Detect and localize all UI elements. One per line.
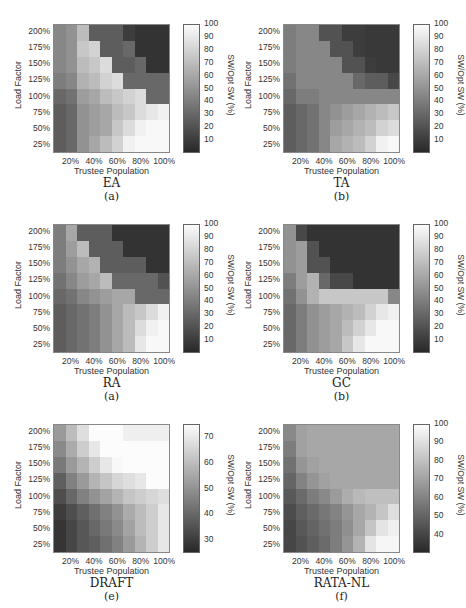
heatmap-cell <box>365 241 377 257</box>
heatmap-cell <box>307 536 319 552</box>
colorbar-tick-label: 80 <box>434 244 443 254</box>
heatmap-cell <box>307 257 319 273</box>
heatmap-cell <box>146 520 158 536</box>
heatmap-cell <box>123 104 135 120</box>
heatmap-cell <box>319 473 331 489</box>
heatmap-cell <box>388 89 400 105</box>
heatmap-cell <box>77 504 89 520</box>
heatmap-cell <box>100 41 112 57</box>
heatmap-cell <box>89 273 101 289</box>
heatmap-cell <box>307 41 319 57</box>
y-tick-label: 25% <box>20 139 50 149</box>
heatmap-cell <box>296 336 308 352</box>
colorbar-tick-label: 30 <box>204 108 213 118</box>
heatmap-cell <box>112 73 124 89</box>
colorbar-tick-label: 50 <box>204 83 213 93</box>
heatmap-cell <box>330 225 342 241</box>
x-tick-label: 100% <box>379 556 409 566</box>
colorbar-tick-label: 60 <box>204 270 213 280</box>
heatmap-cell <box>89 289 101 305</box>
heatmap-cell <box>319 520 331 536</box>
heatmap-cell <box>388 520 400 536</box>
heatmap-cell <box>342 304 354 320</box>
heatmap-cell <box>89 457 101 473</box>
heatmap-cell <box>100 73 112 89</box>
heatmap-cell <box>388 136 400 152</box>
heatmap-cell <box>342 289 354 305</box>
heatmap-cell <box>388 489 400 505</box>
heatmap-cell <box>388 257 400 273</box>
heatmap-cell <box>284 273 296 289</box>
y-tick-label: 50% <box>20 523 50 533</box>
heatmap-cell <box>376 89 388 105</box>
heatmap-cell <box>146 457 158 473</box>
heatmap-cell <box>54 504 66 520</box>
heatmap-cell <box>330 273 342 289</box>
heatmap-cell <box>135 73 147 89</box>
x-tick-label: 100% <box>379 356 409 366</box>
heatmap-cell <box>376 473 388 489</box>
colorbar-tick-label: 40 <box>434 295 443 305</box>
heatmap-cell <box>330 536 342 552</box>
heatmap-cell <box>353 73 365 89</box>
colorbar-tick-label: 50 <box>204 483 213 493</box>
heatmap-cell <box>388 73 400 89</box>
heatmap-cell <box>146 41 158 57</box>
heatmap-cell <box>112 104 124 120</box>
panel-title: RATA-NL <box>283 576 400 590</box>
y-axis-label: Load Factor <box>243 255 253 315</box>
heatmap-cell <box>342 504 354 520</box>
heatmap-cell <box>158 504 170 520</box>
y-tick-label: 75% <box>250 107 280 117</box>
heatmap-cell <box>307 304 319 320</box>
heatmap-cell <box>66 473 78 489</box>
heatmap-cell <box>135 425 147 441</box>
heatmap-cell <box>146 25 158 41</box>
heatmap-cell <box>365 304 377 320</box>
heatmap-cell <box>376 289 388 305</box>
heatmap-cell <box>353 136 365 152</box>
y-tick-label: 75% <box>250 307 280 317</box>
colorbar <box>183 24 200 153</box>
heatmap-cell <box>100 489 112 505</box>
heatmap-cell <box>284 336 296 352</box>
heatmap-cell <box>353 89 365 105</box>
heatmap-cell <box>353 273 365 289</box>
heatmap-cell <box>100 289 112 305</box>
heatmap-cell <box>123 504 135 520</box>
heatmap-cell <box>296 289 308 305</box>
colorbar <box>413 24 430 153</box>
y-tick-label: 150% <box>20 258 50 268</box>
heatmap-cell <box>100 457 112 473</box>
heatmap-cell <box>307 289 319 305</box>
heatmap-cell <box>296 441 308 457</box>
heatmap-cell <box>376 41 388 57</box>
heatmap-cell <box>284 289 296 305</box>
y-tick-label: 75% <box>20 107 50 117</box>
heatmap-cell <box>135 504 147 520</box>
heatmap-cell <box>77 304 89 320</box>
heatmap-cell <box>319 225 331 241</box>
heatmap-cell <box>135 457 147 473</box>
heatmap-cell <box>89 257 101 273</box>
heatmap-cell <box>376 520 388 536</box>
heatmap-cell <box>307 25 319 41</box>
colorbar-tick-label: 70 <box>434 57 443 67</box>
heatmap-cell <box>54 473 66 489</box>
heatmap-cell <box>123 136 135 152</box>
heatmap-cell <box>296 536 308 552</box>
heatmap-cell <box>135 489 147 505</box>
heatmap-cell <box>353 336 365 352</box>
y-tick-label: 100% <box>250 91 280 101</box>
heatmap-cell <box>365 520 377 536</box>
heatmap-cell <box>330 120 342 136</box>
heatmap-cell <box>146 489 158 505</box>
heatmap-cell <box>54 520 66 536</box>
heatmap-cell <box>330 520 342 536</box>
heatmap-cell <box>330 289 342 305</box>
heatmap-cell <box>66 425 78 441</box>
heatmap-cell <box>123 320 135 336</box>
heatmap-cell <box>54 136 66 152</box>
y-tick-label: 125% <box>20 474 50 484</box>
heatmap-cell <box>146 241 158 257</box>
